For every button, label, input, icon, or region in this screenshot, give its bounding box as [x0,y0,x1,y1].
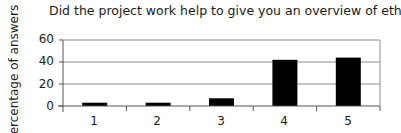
bar-4 [272,60,297,106]
bars [82,58,361,106]
bar-5 [336,58,361,106]
bar-3 [209,98,234,106]
bar-chart-plot [0,0,401,133]
gridlines [63,40,380,106]
